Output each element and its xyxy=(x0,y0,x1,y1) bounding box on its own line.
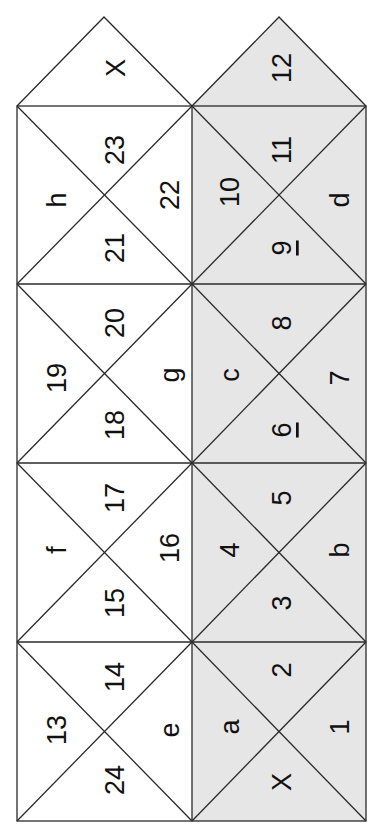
right-cell4-bottom: X xyxy=(267,773,297,791)
right-cell1-left: 10 xyxy=(215,177,245,207)
right-cell3-top: 5 xyxy=(267,490,297,505)
left-cell3-right: 16 xyxy=(155,533,185,563)
left-cell1-bottom: 21 xyxy=(100,233,130,263)
right-cell2-right: 7 xyxy=(325,370,355,385)
right-cell3-right: b xyxy=(325,542,355,557)
right-cell1-right: d xyxy=(325,192,355,207)
right-cell2-left: c xyxy=(215,368,245,382)
left-cell2-bottom: 18 xyxy=(100,410,130,440)
left-cell4-bottom: 24 xyxy=(100,765,130,795)
left-cell4-top: 14 xyxy=(100,662,130,692)
left-cell3-bottom: 15 xyxy=(100,588,130,618)
left-cell4-left: 13 xyxy=(42,715,72,745)
right-cell2-top: 8 xyxy=(267,315,297,330)
left-cell4-right: e xyxy=(155,722,185,737)
right-cell4-left: a xyxy=(215,719,245,735)
left-cell1-top: 23 xyxy=(100,135,130,165)
right-cell3-left: 4 xyxy=(215,542,245,557)
right-cell2-bottom: 6 xyxy=(267,422,297,437)
left-cell3-top: 17 xyxy=(100,483,130,513)
left-cell3-left: f xyxy=(42,546,72,554)
right-cell3-bottom: 3 xyxy=(267,595,297,610)
left-cell1-left: h xyxy=(42,192,72,207)
left-cell2-top: 20 xyxy=(100,308,130,338)
left-cell2-left: 19 xyxy=(42,363,72,393)
right-cell4-right: 1 xyxy=(325,719,355,734)
left-top-triangle-label: X xyxy=(101,59,131,77)
right-cell1-top: 11 xyxy=(267,136,297,164)
left-cell2-right: g xyxy=(155,367,185,382)
right-cell4-top: 2 xyxy=(267,662,297,677)
right-top-triangle-label: 12 xyxy=(267,53,297,83)
triangle-label-diagram: X 23 h 22 21 20 19 g 18 17 f 16 15 14 13… xyxy=(0,0,382,835)
left-cell1-right: 22 xyxy=(155,180,185,210)
right-cell1-bottom: 9 xyxy=(267,240,297,255)
